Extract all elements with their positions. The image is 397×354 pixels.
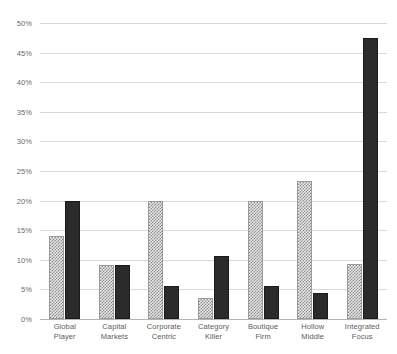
bar [214,256,229,319]
bar-group [90,23,140,319]
x-axis-tick-label: GlobalPlayer [40,322,90,342]
y-axis-tick-label: 15% [17,226,32,235]
bar [248,201,263,319]
x-axis-tick-label: CategoryKiller [189,322,239,342]
bar-group [40,23,90,319]
x-axis-label-line: Focus [337,332,387,342]
bar [99,265,114,319]
x-axis-label-line: Centric [139,332,189,342]
y-axis-tick-label: 50% [17,19,32,28]
x-axis-label-line: Boutique [238,322,288,332]
x-axis-tick-label: BoutiqueFirm [238,322,288,342]
x-axis-label-line: Markets [90,332,140,342]
x-axis-label-line: Player [40,332,90,342]
bar-group [238,23,288,319]
bar [198,298,213,319]
x-axis-label-line: Hollow [288,322,338,332]
bar-groups [40,23,387,319]
x-axis-label-line: Corporate [139,322,189,332]
x-axis-labels: GlobalPlayerCapitalMarketsCorporateCentr… [40,322,387,342]
x-axis-tick-label: CorporateCentric [139,322,189,342]
bar [264,286,279,319]
y-axis-tick-label: 5% [21,285,32,294]
x-axis-label-line: Middle [288,332,338,342]
y-axis-tick-label: 30% [17,137,32,146]
bar [148,201,163,319]
x-axis-label-line: Global [40,322,90,332]
bar [65,201,80,319]
y-axis-tick-label: 10% [17,255,32,264]
y-axis-tick-label: 35% [17,107,32,116]
bar [347,264,362,319]
y-axis-tick-label: 0% [21,315,32,324]
y-axis-tick-label: 25% [17,167,32,176]
bar [297,181,312,319]
bar-group [337,23,387,319]
bar [363,38,378,319]
bar-group [189,23,239,319]
x-axis-label-line: Capital [90,322,140,332]
gridline [40,319,387,320]
x-axis-label-line: Integrated [337,322,387,332]
y-axis-tick-label: 40% [17,78,32,87]
x-axis-label-line: Killer [189,332,239,342]
y-axis-tick-label: 45% [17,48,32,57]
bar-chart: 50%45%40%35%30%25%20%15%10%5%0% GlobalPl… [0,0,397,354]
bar [49,236,64,319]
bar-group [139,23,189,319]
x-axis-tick-label: CapitalMarkets [90,322,140,342]
bar-group [288,23,338,319]
bar [164,286,179,319]
x-axis-label-line: Firm [238,332,288,342]
x-axis-tick-label: IntegratedFocus [337,322,387,342]
bar [313,293,328,319]
bar [115,265,130,319]
y-axis: 50%45%40%35%30%25%20%15%10%5%0% [0,23,36,319]
x-axis-tick-label: HollowMiddle [288,322,338,342]
x-axis-label-line: Category [189,322,239,332]
y-axis-tick-label: 20% [17,196,32,205]
plot-area [40,23,387,319]
